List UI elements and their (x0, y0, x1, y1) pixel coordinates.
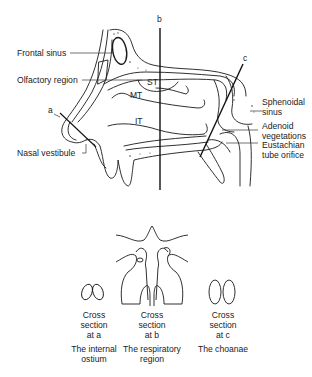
label-adenoid-vegetations: Adenoid vegetations (262, 121, 306, 141)
section-label-c: c (243, 53, 247, 63)
label-nasal-vestibule: Nasal vestibule (17, 148, 75, 158)
label-inferior-turbinate: IT (135, 116, 143, 126)
label-sphenoidal-sinus: Sphenoidal sinus (262, 97, 305, 117)
caption-cross-section-c: Cross section at c (209, 310, 236, 340)
cross-section-b (116, 226, 188, 306)
section-label-b: b (157, 14, 162, 24)
label-middle-turbinate: MT (130, 90, 142, 100)
section-line-a (60, 113, 96, 147)
name-respiratory-region: The respiratory region (123, 344, 181, 364)
palate-outline (86, 139, 222, 186)
name-internal-ostium: The internal ostium (71, 344, 116, 364)
label-frontal-sinus: Frontal sinus (17, 48, 66, 58)
label-eustachian-tube-orifice: Eustachian tube orifice (262, 140, 305, 160)
name-choanae: The choanae (198, 344, 248, 354)
cross-section-c (209, 280, 235, 304)
section-label-a: a (48, 105, 53, 115)
label-superior-turbinate: ST (147, 77, 158, 87)
middle-turbinate-shape (112, 93, 205, 108)
inferior-turbinate-shape (108, 124, 207, 135)
caption-cross-section-a: Cross section at a (80, 310, 107, 340)
frontal-sinus-shape (113, 37, 127, 64)
label-olfactory-region: Olfactory region (17, 75, 78, 85)
cross-section-a (80, 283, 106, 301)
caption-cross-section-b: Cross section at b (138, 310, 165, 340)
